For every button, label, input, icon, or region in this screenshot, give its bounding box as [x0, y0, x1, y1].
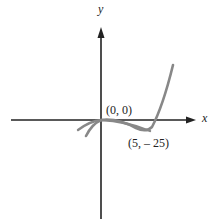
minimum-point-label: (5, – 25) — [128, 136, 169, 151]
y-axis-label: y — [98, 2, 103, 17]
x-axis-arrow-icon — [186, 117, 196, 124]
y-axis-arrow-icon — [98, 27, 105, 38]
origin-point-label: (0, 0) — [106, 103, 132, 118]
graph-figure: y x (0, 0) (5, – 25) — [0, 0, 212, 221]
x-axis-label: x — [202, 111, 207, 126]
